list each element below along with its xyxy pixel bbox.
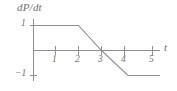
- plot-canvas: [0, 0, 177, 91]
- plot-figure: dP/dt t 1 −1 1 2 3 4 5: [0, 0, 177, 91]
- y-tick-label-minus-1: −1: [15, 69, 26, 79]
- x-tick-label-1: 1: [52, 55, 57, 65]
- y-tick-label-1: 1: [21, 19, 26, 29]
- x-tick-label-2: 2: [75, 55, 80, 65]
- x-tick-label-4: 4: [121, 55, 126, 65]
- x-tick-label-3: 3: [98, 55, 103, 65]
- y-axis-title: dP/dt: [17, 2, 42, 13]
- x-tick-label-5: 5: [149, 55, 154, 65]
- x-axis-title: t: [164, 42, 167, 53]
